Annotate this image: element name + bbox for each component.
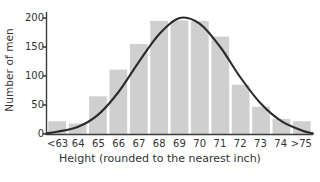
histogram-bar xyxy=(130,44,148,134)
x-tick-label: <63 xyxy=(47,136,68,152)
x-tick-label: 73 xyxy=(250,136,270,152)
x-tick-label: 69 xyxy=(169,136,189,152)
histogram-bar xyxy=(211,37,229,134)
histogram-bar xyxy=(171,20,189,134)
x-tick-label: 67 xyxy=(129,136,149,152)
x-tick-label: 65 xyxy=(88,136,108,152)
x-tick-label: 66 xyxy=(109,136,129,152)
histogram-bar xyxy=(232,85,250,134)
x-tick-label: >75 xyxy=(291,136,312,152)
x-tick-label: 71 xyxy=(210,136,230,152)
x-axis-title: Height (rounded to the nearest inch) xyxy=(0,152,320,165)
x-tick-label: 68 xyxy=(149,136,169,152)
histogram-bars xyxy=(48,20,310,134)
histogram-bar xyxy=(109,70,127,134)
x-axis-tick-labels: <63 64 65 66 67 68 69 70 71 72 73 74 >75 xyxy=(47,136,312,152)
x-tick-label: 74 xyxy=(271,136,291,152)
histogram-figure: Number of men 0 50 100 150 200 <63 64 65… xyxy=(0,0,320,182)
histogram-bar xyxy=(150,21,168,134)
x-tick-label: 72 xyxy=(230,136,250,152)
x-tick-label: 64 xyxy=(68,136,88,152)
histogram-bar xyxy=(191,21,209,134)
x-tick-label: 70 xyxy=(190,136,210,152)
